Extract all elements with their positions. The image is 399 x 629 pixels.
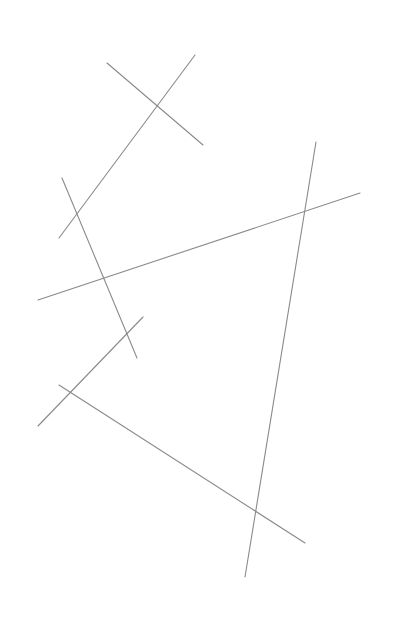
line-diagram-canvas — [0, 0, 399, 629]
background — [0, 0, 399, 629]
